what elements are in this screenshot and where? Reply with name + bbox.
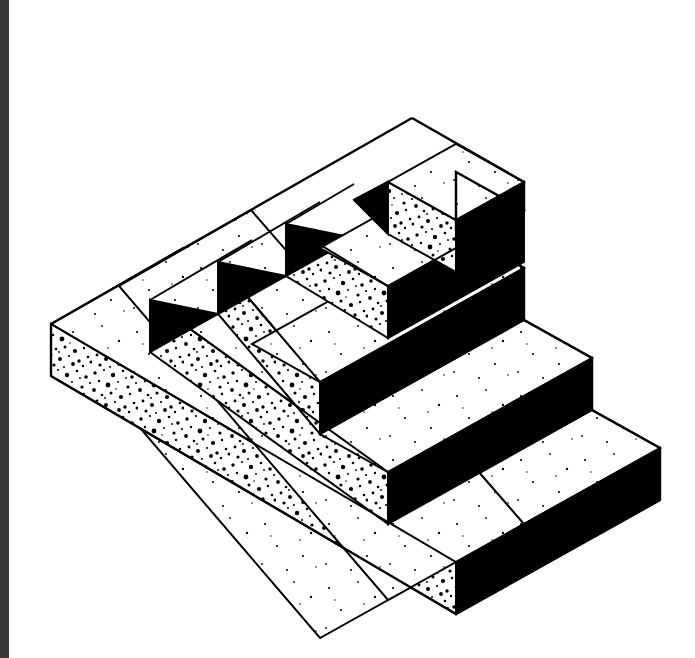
ul-edge-4 bbox=[286, 184, 354, 224]
left-scan-edge-band bbox=[0, 0, 9, 658]
stepped-pyramid-illustration bbox=[0, 0, 695, 658]
image-canvas: Five-terrace isometric stepped pyramid d… bbox=[0, 0, 695, 658]
